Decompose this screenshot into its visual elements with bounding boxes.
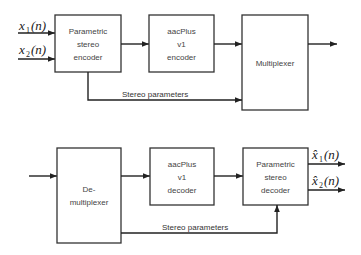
svg-text:aacPlus: aacPlus — [167, 27, 195, 36]
svg-text:(n): (n) — [324, 173, 339, 188]
multiplexer-block: Multiplexer — [242, 15, 308, 110]
aacplus-v1-encoder-block: aacPlus v1 encoder — [149, 15, 214, 72]
svg-text:encoder: encoder — [74, 53, 103, 62]
svg-text:1: 1 — [319, 155, 323, 164]
svg-text:2: 2 — [26, 50, 30, 59]
stereo-parameters-label: Stereo parameters — [162, 223, 228, 232]
input-x2-label: x 2 (n) — [18, 42, 46, 59]
svg-text:x: x — [18, 18, 25, 33]
svg-text:x: x — [18, 42, 25, 57]
svg-text:decoder: decoder — [168, 186, 197, 195]
output-x2-hat-label: x̂ 2 (n) — [311, 173, 339, 190]
demultiplexer-block: De- multiplexer — [57, 148, 121, 243]
svg-text:aacPlus: aacPlus — [168, 160, 196, 169]
svg-text:stereo: stereo — [264, 173, 287, 182]
svg-text:De-: De- — [83, 185, 96, 194]
output-x1-hat-label: x̂ 1 (n) — [311, 147, 339, 164]
aacplus-v1-decoder-block: aacPlus v1 decoder — [150, 148, 214, 205]
stereo-parameters-label: Stereo parameters — [122, 90, 188, 99]
svg-text:(n): (n) — [324, 147, 339, 162]
svg-text:multiplexer: multiplexer — [70, 198, 109, 207]
svg-text:encoder: encoder — [167, 53, 196, 62]
encoder-diagram: x 1 (n) x 2 (n) Parametric stereo encode… — [18, 15, 337, 110]
block-diagram: x 1 (n) x 2 (n) Parametric stereo encode… — [0, 0, 361, 255]
svg-text:v1: v1 — [178, 173, 187, 182]
svg-text:v1: v1 — [177, 40, 186, 49]
decoder-diagram: De- multiplexer aacPlus v1 decoder Param… — [29, 147, 345, 243]
svg-text:2: 2 — [319, 181, 323, 190]
parametric-stereo-encoder-block: Parametric stereo encoder — [55, 15, 121, 72]
svg-text:stereo: stereo — [77, 40, 100, 49]
svg-text:decoder: decoder — [261, 186, 290, 195]
svg-text:Parametric: Parametric — [69, 27, 108, 36]
svg-text:Multiplexer: Multiplexer — [256, 59, 295, 68]
parametric-stereo-decoder-block: Parametric stereo decoder — [243, 148, 308, 205]
svg-text:x̂: x̂ — [311, 147, 318, 162]
svg-text:x̂: x̂ — [311, 173, 318, 188]
svg-text:(n): (n) — [31, 18, 46, 33]
svg-text:(n): (n) — [31, 42, 46, 57]
svg-text:Parametric: Parametric — [256, 160, 295, 169]
